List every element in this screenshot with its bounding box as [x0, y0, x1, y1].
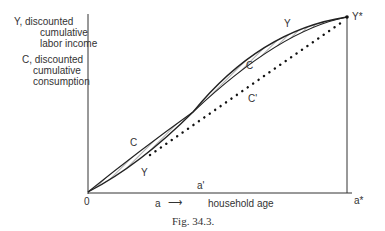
hatch-region-upper: [193, 17, 347, 112]
c-upper-label: C: [246, 60, 253, 72]
y-axis-label-line3: labor income: [40, 38, 97, 50]
origin-label: 0: [84, 196, 90, 208]
c-lower-label: C: [130, 137, 137, 149]
c-prime-line: [150, 20, 345, 155]
figure-caption: Fig. 34.3.: [172, 215, 214, 227]
a-prime-label: a': [197, 180, 204, 192]
c-prime-label: C': [248, 93, 257, 105]
x-axis-label: household age: [208, 198, 274, 210]
c-axis-label-line3: consumption: [33, 76, 90, 88]
a-star-label: a*: [354, 195, 363, 207]
x-axis-var: a: [155, 198, 161, 210]
y-upper-label: Y: [284, 18, 291, 30]
y-lower-label: Y: [141, 167, 148, 179]
y-star-label: Y*: [352, 11, 363, 23]
arrow-icon: ⟶: [168, 197, 182, 209]
